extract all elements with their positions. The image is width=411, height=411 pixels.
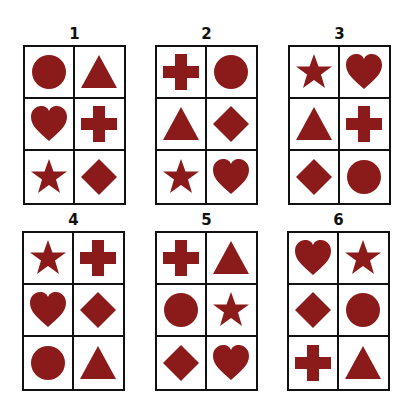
grid-cell [74,285,124,337]
star-icon [29,157,69,197]
grid-cell [289,233,339,285]
diamond-icon [78,290,118,330]
grid-cell [24,337,74,389]
panel-label: 6 [287,212,390,228]
grid-cell [289,285,339,337]
star-icon [161,157,201,197]
triangle-icon [211,238,251,278]
cross-icon [293,343,333,383]
panel-6: 6 [287,231,390,391]
grid-cell [157,99,207,151]
heart-icon [211,157,251,197]
circle-icon [344,157,384,197]
grid-cell [74,233,124,285]
grid-cell [75,99,125,151]
diamond-icon [161,343,201,383]
grid-cell [157,151,207,203]
grid-cell [207,47,257,99]
grid-cell [339,233,389,285]
grid-cell [339,285,389,337]
panel-4: 4 [22,231,125,391]
grid-cell [75,47,125,99]
heart-icon [29,104,69,144]
star-icon [28,238,68,278]
shape-grid [22,231,125,391]
grid-cell [340,99,390,151]
panel-2: 2 [155,45,258,205]
grid-cell [25,151,75,203]
grid-cell [339,337,389,389]
grid-cell [290,47,340,99]
shape-grid [287,231,390,391]
circle-icon [28,343,68,383]
cross-icon [78,238,118,278]
diamond-icon [293,290,333,330]
shape-grid [155,231,258,391]
shape-grid [288,45,391,205]
grid-cell [157,233,207,285]
cross-icon [79,104,119,144]
circle-icon [211,52,251,92]
panel-label: 5 [155,212,258,228]
star-icon [343,238,383,278]
triangle-icon [79,52,119,92]
panel-3: 3 [288,45,391,205]
grid-cell [207,151,257,203]
triangle-icon [78,343,118,383]
grid-cell [340,47,390,99]
cross-icon [161,52,201,92]
grid-cell [340,151,390,203]
cross-icon [161,238,201,278]
grid-cell [25,99,75,151]
cross-icon [344,104,384,144]
star-icon [211,290,251,330]
grid-cell [157,337,207,389]
circle-icon [343,290,383,330]
grid-cell [24,285,74,337]
panel-label: 2 [155,26,258,42]
diamond-icon [211,104,251,144]
grid-cell [290,151,340,203]
circle-icon [161,290,201,330]
triangle-icon [343,343,383,383]
grid-cell [289,337,339,389]
grid-cell [25,47,75,99]
panel-label: 4 [22,212,125,228]
grid-cell [24,233,74,285]
grid-cell [75,151,125,203]
grid-cell [157,47,207,99]
panel-1: 1 [23,45,126,205]
heart-icon [344,52,384,92]
heart-icon [293,238,333,278]
grid-cell [207,233,257,285]
shape-grid [155,45,258,205]
grid-cell [290,99,340,151]
grid-cell [207,99,257,151]
grid-cell [157,285,207,337]
triangle-icon [294,104,334,144]
diamond-icon [79,157,119,197]
grid-cell [74,337,124,389]
grid-cell [207,337,257,389]
panel-label: 3 [288,26,391,42]
triangle-icon [161,104,201,144]
shape-grid [23,45,126,205]
panel-5: 5 [155,231,258,391]
heart-icon [211,343,251,383]
circle-icon [29,52,69,92]
star-icon [294,52,334,92]
panel-label: 1 [23,26,126,42]
heart-icon [28,290,68,330]
diamond-icon [294,157,334,197]
grid-cell [207,285,257,337]
